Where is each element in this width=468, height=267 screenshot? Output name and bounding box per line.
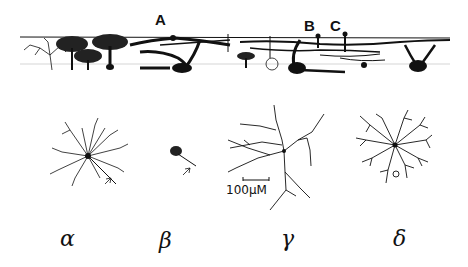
scale-bar <box>243 177 269 181</box>
delta-cell <box>356 110 432 183</box>
scale-bar-label: 100µM <box>226 184 267 196</box>
label-alpha: α <box>60 228 75 250</box>
retina-cross-section <box>20 32 450 75</box>
label-a: A <box>155 12 166 27</box>
alpha-cell <box>50 118 128 186</box>
neuron-figure: A B C 100µM α β γ δ <box>0 0 468 267</box>
label-c: C <box>330 18 341 33</box>
beta-cell <box>170 146 196 175</box>
label-delta: δ <box>393 228 406 250</box>
label-gamma: γ <box>281 228 294 250</box>
label-beta: β <box>159 230 172 252</box>
label-b: B <box>304 18 315 33</box>
